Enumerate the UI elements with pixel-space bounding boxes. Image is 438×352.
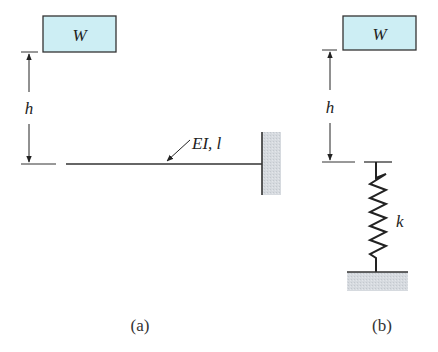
height-label-a: h (25, 99, 34, 118)
caption-b: (b) (372, 316, 392, 335)
weight-block-a: W (43, 16, 116, 52)
height-dimension-a: h (21, 52, 56, 164)
weight-label-a: W (72, 26, 88, 45)
ground-support (347, 272, 408, 291)
beam-label: EI, l (191, 134, 222, 153)
pointer-arrow-icon (167, 140, 190, 161)
caption-a: (a) (131, 316, 150, 335)
weight-label-b: W (372, 25, 388, 44)
panel-b: W h k (b) (322, 16, 416, 335)
panel-a: W h EI, l (a) (21, 16, 281, 335)
height-label-b: h (326, 98, 335, 117)
figure-canvas: W h EI, l (a) W (0, 0, 438, 352)
spring: k (364, 162, 404, 273)
weight-block-b: W (343, 16, 416, 50)
beam-label-pointer: EI, l (167, 134, 222, 161)
spring-label: k (396, 212, 404, 231)
fixed-wall-support (262, 132, 281, 195)
height-dimension-b: h (322, 50, 355, 162)
